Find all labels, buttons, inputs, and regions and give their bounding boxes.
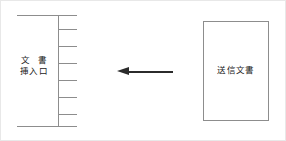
diagram-canvas: 文 書 挿入口 送信文書 [0,0,286,141]
slot-vertical-spine [58,15,59,127]
slot-shelf-tick [59,97,77,98]
slot-label-line-1: 文 書 [11,55,57,66]
outgoing-document: 送信文書 [203,21,269,121]
slot-shelf-tick [59,80,77,81]
slot-shelf-tick [59,114,77,115]
slot-label-line-2: 挿入口 [11,66,57,77]
document-label: 送信文書 [203,65,269,76]
slot-shelf-tick [59,63,77,64]
document-insertion-slot: 文 書 挿入口 [1,1,111,141]
slot-shelf-tick [59,29,77,30]
flow-arrow-left [117,65,173,79]
slot-top-rail [17,15,77,16]
slot-shelf-tick [59,46,77,47]
slot-label: 文 書 挿入口 [11,55,57,77]
arrow-shaft [128,71,173,73]
slot-bottom-rail [17,126,77,127]
